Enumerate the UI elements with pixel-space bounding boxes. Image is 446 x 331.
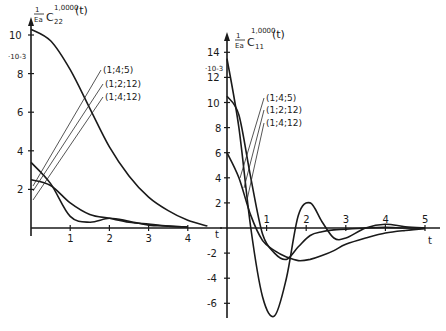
right-curves [227,59,425,317]
series-curve [31,162,188,227]
x-tick-label: 3 [343,214,349,225]
left-title: 1 Ea C 22 1,0000 (t) [34,4,88,26]
left-title-symbol: C [46,11,54,24]
y-tick-label: 8 [17,69,23,80]
legend-label: (1;4;12) [266,118,302,128]
y-tick-label: 10 [9,30,22,41]
y-tick-label: 6 [17,107,23,118]
y-tick-label: 10 [207,98,220,109]
y-tick-label: -6 [207,298,217,309]
x-tick-label: 2 [106,233,112,244]
right-title-frac-den: Ea [235,42,244,50]
leader-line [33,97,103,200]
x-tick-label: 3 [146,233,152,244]
right-y-arrow-icon [224,32,230,41]
series-curve [227,59,425,317]
y-tick-label: 4 [17,146,23,157]
y-tick-label: 12 [207,72,220,83]
y-tick-label: 2 [215,198,221,209]
x-tick-label: 2 [303,214,309,225]
legend-label: (1;4;5) [103,65,133,75]
leader-line [247,123,264,200]
figure: 1234246810 (1;4;5)(1;2;12)(1;4;12) 1 Ea … [0,0,446,331]
legend-label: (1;2;12) [105,79,141,89]
right-title-sub: 11 [255,43,264,51]
y-tick-label: 14 [207,47,220,58]
left-title-frac-den: Ea [34,16,43,24]
right-x-label: t [428,235,432,246]
right-title: 1 Ea C 11 1,0000 (t) [235,27,285,51]
x-tick-label: 1 [67,233,73,244]
legend-label: (1;2;12) [266,105,302,115]
series-curve [31,180,188,227]
x-tick-label: 4 [185,233,191,244]
left-curves [31,29,207,227]
right-title-symbol: C [247,36,255,49]
left-ticks: 1234246810 [9,30,191,244]
right-ticks: 12345-6-4-22468101214 [207,47,428,309]
y-tick-label: 6 [215,148,221,159]
right-title-frac-num: 1 [236,32,240,40]
leader-line [33,84,103,191]
legend-label: (1;4;5) [266,93,296,103]
left-scale-label: ·10-3 [8,53,26,61]
right-chart: 12345-6-4-22468101214 (1;4;5)(1;2;12)(1;… [205,27,440,318]
x-tick-label: 1 [264,214,270,225]
left-chart: 1234246810 (1;4;5)(1;2;12)(1;4;12) 1 Ea … [8,4,222,244]
y-tick-label: 2 [17,184,23,195]
series-curve [227,96,425,259]
left-x-label: t [215,229,219,240]
left-title-arg: (t) [75,4,88,17]
y-tick-label: 8 [215,123,221,134]
leader-line [244,110,264,188]
leader-line [33,70,101,186]
y-tick-label: -4 [207,273,217,284]
legend-label: (1;4;12) [105,92,141,102]
y-tick-label: 4 [215,173,221,184]
x-tick-label: 4 [382,214,388,225]
right-leaders: (1;4;5)(1;2;12)(1;4;12) [240,93,302,200]
y-tick-label: -2 [207,248,217,259]
left-title-frac-num: 1 [35,6,39,14]
left-leaders: (1;4;5)(1;2;12)(1;4;12) [33,65,141,200]
right-scale-label: ·10-3 [205,65,223,73]
left-title-sub: 22 [54,18,63,26]
right-title-arg: (t) [272,28,285,41]
x-tick-label: 5 [422,214,428,225]
